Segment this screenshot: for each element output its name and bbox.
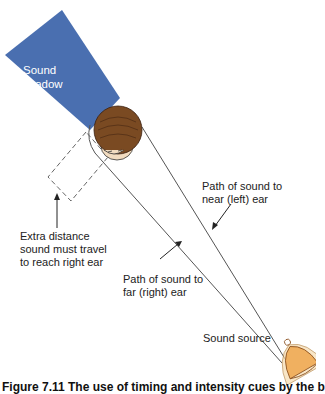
sound-shadow-line-1: Sound (23, 63, 63, 77)
near-path-label: Path of sound to near (left) ear (202, 180, 282, 206)
far-path-line-1: Path of sound to (123, 273, 203, 286)
extra-distance-label: Extra distance sound must travel to reac… (20, 230, 107, 269)
near-ear-path-line (142, 127, 287, 362)
extra-distance-line-1: Extra distance (20, 230, 107, 243)
sound-shadow-line-2: shadow (23, 77, 63, 91)
sound-shadow-label: Sound shadow (23, 63, 63, 91)
near-path-arrow (212, 204, 231, 230)
near-path-line-2: near (left) ear (202, 193, 282, 206)
far-path-line-2: far (right) ear (123, 286, 203, 299)
far-path-arrow (160, 241, 182, 259)
extra-distance-arrow (54, 193, 60, 228)
extra-distance-line-3: to reach right ear (20, 256, 107, 269)
near-path-line-1: Path of sound to (202, 180, 282, 193)
figure-caption: Figure 7.11 The use of timing and intens… (2, 380, 325, 394)
sound-source-label: Sound source (203, 332, 271, 345)
head-icon (94, 106, 142, 160)
bell-icon (267, 329, 316, 386)
extra-distance-line-2: sound must travel (20, 243, 107, 256)
far-path-label: Path of sound to far (right) ear (123, 273, 203, 299)
